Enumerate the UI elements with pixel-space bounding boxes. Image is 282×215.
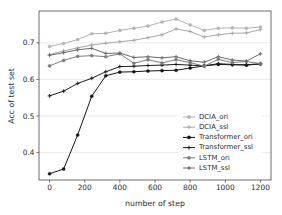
data-point-marker — [203, 65, 206, 68]
chart-legend[interactable]: DCIA_oriDCIA_sslTransformer_oriTransform… — [178, 111, 262, 178]
legend-label: LSTM_ori — [199, 154, 230, 162]
y-axis-label: Acc of test set — [7, 68, 16, 124]
data-point-marker — [90, 32, 93, 35]
data-point-marker — [48, 45, 51, 48]
data-point-marker — [203, 29, 206, 32]
data-point-marker — [146, 24, 149, 27]
data-point-marker — [175, 69, 178, 72]
data-point-marker — [62, 59, 65, 62]
data-point-marker — [146, 69, 149, 72]
data-point-marker — [48, 64, 51, 67]
data-point-marker — [62, 42, 65, 45]
x-tick-label: 1000 — [216, 183, 235, 192]
series-dcia-ori — [48, 18, 262, 49]
data-point-marker — [62, 167, 65, 170]
data-point-marker — [76, 55, 79, 58]
series-line — [50, 48, 261, 62]
series-line — [50, 64, 261, 96]
series-dcia-ssl — [48, 27, 263, 56]
data-point-marker — [217, 27, 220, 30]
data-point-marker — [104, 55, 107, 58]
data-point-marker — [187, 115, 190, 118]
x-tick-label: 0 — [47, 183, 52, 192]
data-point-marker — [90, 54, 93, 57]
data-point-marker — [104, 32, 107, 35]
data-point-marker — [189, 23, 192, 26]
series-line — [50, 19, 261, 46]
data-point-marker — [160, 20, 163, 23]
y-tick-label: 0.5 — [23, 112, 35, 121]
chart-figure: 0.40.50.60.7 020040060080010001200 numbe… — [0, 0, 282, 215]
legend-label: DCIA_ori — [199, 113, 228, 121]
data-point-marker — [104, 74, 107, 77]
y-tick-labels: 0.40.50.60.7 — [23, 38, 35, 157]
data-point-marker — [187, 136, 190, 139]
x-tick-labels: 020040060080010001200 — [47, 183, 270, 192]
x-tick-label: 1200 — [251, 183, 270, 192]
data-point-marker — [259, 62, 262, 65]
x-tick-label: 600 — [148, 183, 162, 192]
data-point-marker — [175, 18, 178, 21]
legend-label: DCIA_ssl — [199, 123, 228, 131]
data-point-marker — [76, 133, 79, 136]
data-point-marker — [231, 26, 234, 29]
series-line — [50, 29, 261, 55]
data-point-marker — [187, 156, 190, 159]
y-tick-label: 0.4 — [23, 148, 35, 157]
legend-label: Transformer_ssl — [198, 143, 253, 151]
data-point-marker — [160, 69, 163, 72]
data-point-marker — [90, 95, 93, 98]
data-point-marker — [160, 61, 163, 64]
legend-label: LSTM_ssl — [199, 164, 230, 172]
y-tick-label: 0.6 — [23, 75, 35, 84]
x-axis-label: number of step — [125, 199, 185, 208]
series-transformer-ssl — [48, 62, 263, 98]
x-tick-label: 400 — [113, 183, 127, 192]
data-point-marker — [132, 27, 135, 30]
data-point-marker — [118, 29, 121, 32]
data-point-marker — [76, 38, 79, 41]
y-tick-label: 0.7 — [23, 38, 35, 47]
data-point-marker — [245, 27, 248, 30]
x-tick-label: 800 — [183, 183, 197, 192]
line-chart: 0.40.50.60.7 020040060080010001200 numbe… — [0, 0, 282, 215]
legend-label: Transformer_ori — [198, 133, 253, 141]
data-point-marker — [118, 71, 121, 74]
data-point-marker — [132, 70, 135, 73]
data-point-marker — [132, 62, 135, 65]
data-point-marker — [48, 172, 51, 175]
x-tick-label: 200 — [78, 183, 92, 192]
